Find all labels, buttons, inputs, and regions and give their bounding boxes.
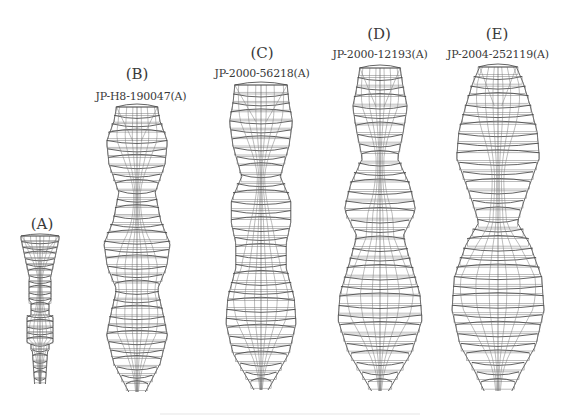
design-a-label: (A) — [24, 215, 60, 233]
lens-design-b-drawing — [104, 107, 170, 392]
design-d-label: (D) — [354, 25, 404, 43]
design-d-patent-number: JP-2000-12193(A) — [320, 48, 440, 61]
design-e-patent-number: JP-2004-252119(A) — [436, 48, 560, 61]
design-b-patent-number: JP-H8-190047(A) — [86, 90, 196, 103]
design-c-patent-number: JP-2000-56218(A) — [200, 67, 324, 80]
faded-caption — [160, 413, 420, 415]
lens-design-a-drawing — [20, 236, 60, 384]
design-e-label: (E) — [472, 25, 522, 43]
lens-design-d-drawing — [338, 68, 422, 391]
lens-design-e-drawing — [452, 67, 544, 391]
lens-design-c-drawing — [226, 85, 296, 390]
design-b-label: (B) — [112, 65, 162, 83]
design-c-label: (C) — [237, 44, 287, 62]
